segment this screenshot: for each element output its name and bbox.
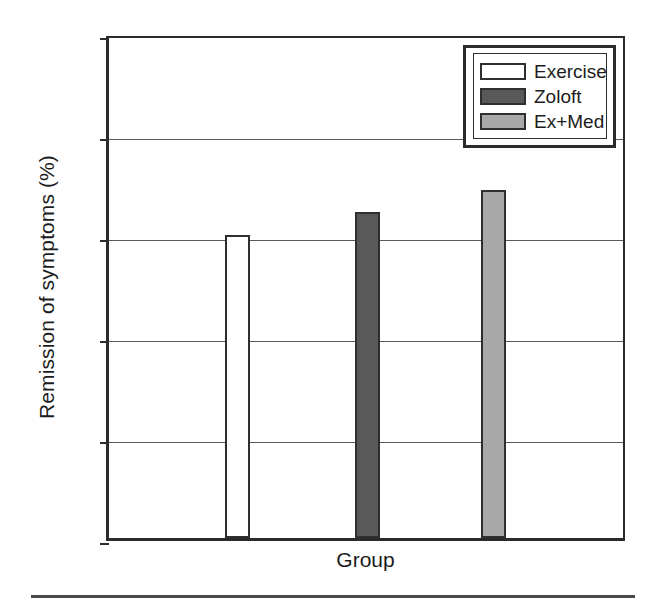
x-axis-title: Group [106, 548, 625, 572]
legend-swatch-exercise [480, 63, 526, 80]
legend-label-exercise: Exercise [534, 62, 607, 81]
y-tick-mark-100 [100, 38, 109, 40]
legend-item-zoloft: Zoloft [480, 84, 601, 108]
bar-exercise [225, 235, 250, 538]
bar-ex-med [481, 190, 506, 538]
footer-rule [31, 595, 635, 598]
legend-item-exmed: Ex+Med [480, 109, 601, 133]
y-axis-title: Remission of symptoms (%) [35, 122, 59, 452]
bar-chart-figure: Remission of symptoms (%) 020406080100 E… [0, 0, 657, 605]
y-tick-mark-0 [100, 543, 109, 545]
y-tick-mark-40 [100, 341, 109, 343]
y-tick-mark-60 [100, 240, 109, 242]
legend-label-exmed: Ex+Med [534, 112, 604, 131]
bar-zoloft [355, 212, 380, 538]
legend-swatch-exmed [480, 113, 526, 130]
plot-area: 020406080100 Exercise Zoloft Ex+Med [106, 36, 625, 541]
chart-legend: Exercise Zoloft Ex+Med [463, 45, 616, 148]
legend-inner-box: Exercise Zoloft Ex+Med [473, 53, 607, 139]
legend-item-exercise: Exercise [480, 59, 601, 83]
y-tick-mark-20 [100, 442, 109, 444]
legend-label-zoloft: Zoloft [534, 87, 582, 106]
y-tick-mark-80 [100, 139, 109, 141]
legend-swatch-zoloft [480, 88, 526, 105]
